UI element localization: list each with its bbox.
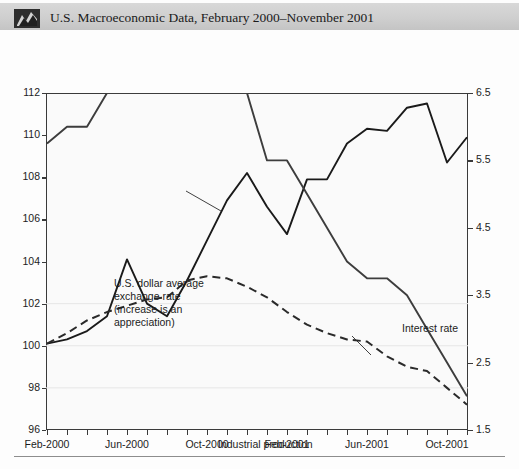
y-axis-tick-label: 108: [0, 170, 40, 182]
series-line: [47, 104, 467, 344]
y-axis-tick: [42, 388, 46, 389]
x-axis-tick: [367, 430, 368, 435]
header-band: U.S. Macroeconomic Data, February 2000–N…: [0, 3, 519, 30]
y-axis-tick-label: 96: [0, 423, 40, 435]
x-axis-tick-label: Jun-2001: [327, 438, 407, 450]
chart-thumbnail-icon: [14, 9, 40, 28]
x-axis-tick-label: Oct-2001: [407, 438, 487, 450]
x-axis-tick: [447, 430, 448, 435]
x-axis-tick: [147, 430, 148, 435]
y-axis-tick-label: 100: [0, 339, 40, 351]
y-axis-tick: [42, 219, 46, 220]
y-axis-tick: [42, 262, 46, 263]
x-axis-tick: [407, 430, 408, 435]
y-axis-tick: [42, 93, 46, 94]
series-line: [47, 93, 467, 396]
x-axis-tick: [127, 430, 128, 435]
x-axis-tick: [67, 430, 68, 435]
y2-axis-tick: [468, 228, 473, 229]
y2-axis-tick: [468, 430, 473, 431]
y2-axis-tick-label: 2.5: [476, 356, 519, 368]
x-axis-tick: [287, 430, 288, 435]
y2-axis-tick-label: 1.5: [476, 423, 519, 435]
x-axis-tick-label: Feb-2001: [247, 438, 327, 450]
x-axis-tick: [307, 430, 308, 435]
x-axis-tick: [187, 430, 188, 435]
series-line: [47, 276, 467, 404]
y-axis-tick: [42, 346, 46, 347]
x-axis-tick: [387, 430, 388, 435]
x-axis-tick-label: Jun-2000: [87, 438, 167, 450]
y-axis-tick-label: 110: [0, 128, 40, 140]
y2-axis-tick: [468, 160, 473, 161]
x-axis-tick: [87, 430, 88, 435]
x-axis-tick: [227, 430, 228, 435]
annotation-exchange-rate: U.S. dollar average exchange rate (incre…: [114, 277, 204, 329]
y2-axis-tick: [468, 363, 473, 364]
x-axis-tick: [267, 430, 268, 435]
bottom-divider: [14, 456, 505, 457]
x-axis-tick-label: Oct-2000: [167, 438, 247, 450]
x-axis-tick-label: Feb-2000: [7, 438, 87, 450]
y-axis-tick: [42, 304, 46, 305]
x-axis-tick: [327, 430, 328, 435]
x-axis-tick: [107, 430, 108, 435]
x-axis-tick: [427, 430, 428, 435]
y-axis-tick: [42, 177, 46, 178]
y-axis-tick: [42, 430, 46, 431]
x-axis-tick: [347, 430, 348, 435]
y2-axis-tick-label: 6.5: [476, 86, 519, 98]
y-axis-tick-label: 102: [0, 297, 40, 309]
page-title: U.S. Macroeconomic Data, February 2000–N…: [50, 10, 374, 26]
y-axis-tick-label: 104: [0, 255, 40, 267]
x-axis-tick: [167, 430, 168, 435]
y2-axis-tick-label: 5.5: [476, 153, 519, 165]
plot-svg: [46, 93, 468, 430]
x-axis-tick: [47, 430, 48, 435]
annotation-interest-rate: Interest rate: [402, 322, 458, 335]
x-axis-tick: [247, 430, 248, 435]
y2-axis-tick-label: 3.5: [476, 288, 519, 300]
y-axis-tick-label: 106: [0, 212, 40, 224]
y2-axis-tick: [468, 295, 473, 296]
y-axis-tick: [42, 135, 46, 136]
x-axis-tick: [207, 430, 208, 435]
plot-area: U.S. dollar average exchange rate (incre…: [46, 93, 468, 430]
chart-page: U.S. Macroeconomic Data, February 2000–N…: [0, 0, 519, 469]
y-axis-tick-label: 98: [0, 381, 40, 393]
y2-axis-tick: [468, 93, 473, 94]
x-axis-tick: [467, 430, 468, 435]
y2-axis-tick-label: 4.5: [476, 221, 519, 233]
y-axis-tick-label: 112: [0, 86, 40, 98]
